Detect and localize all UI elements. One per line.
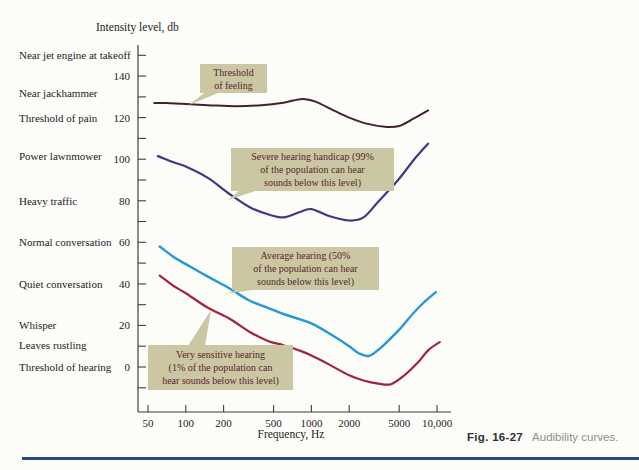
y-tick-label: 140 xyxy=(98,70,130,82)
callout-text-line: (1% of the population can xyxy=(148,361,293,374)
callout-text-line: Threshold xyxy=(200,66,267,79)
textbook-figure-page: Intensity level, db Near jet engine at t… xyxy=(0,0,639,470)
y-tick-label: 40 xyxy=(98,278,130,290)
x-tick-label: 5000 xyxy=(388,417,410,429)
threshold-of-feeling-callout-tail xyxy=(189,93,218,105)
x-tick-label: 2000 xyxy=(338,417,360,429)
threshold-of-feeling-callout: Thresholdof feeling xyxy=(200,64,267,93)
page-rule-line xyxy=(22,457,639,460)
callout-text-line: sounds below this level) xyxy=(231,176,394,189)
x-axis-title: Frequency, Hz xyxy=(245,428,337,440)
average-hearing-callout: Average hearing (50%of the population ca… xyxy=(232,247,379,290)
y-tick-label: 120 xyxy=(98,112,130,124)
sound-label: Heavy traffic xyxy=(19,195,77,207)
y-tick-label: 100 xyxy=(98,153,130,165)
callout-text-line: sounds below this level) xyxy=(232,275,379,288)
x-tick-label: 50 xyxy=(143,417,154,429)
very-sensitive-hearing-callout: Very sensitive hearing(1% of the populat… xyxy=(148,345,293,390)
x-tick-label: 10,000 xyxy=(422,417,452,429)
figure-number: Fig. 16-27 xyxy=(467,431,523,443)
sound-label: Threshold of pain xyxy=(19,112,97,124)
sound-label: Quiet conversation xyxy=(19,278,102,290)
x-tick-label: 100 xyxy=(178,417,195,429)
figure-caption: Fig. 16-27Audibility curves. xyxy=(467,431,618,443)
figure-caption-text: Audibility curves. xyxy=(532,431,618,443)
very-sensitive-hearing-callout-tail xyxy=(188,310,211,346)
y-tick-label: 0 xyxy=(98,361,130,373)
callout-text-line: of the population can hear xyxy=(231,163,394,176)
callout-text-line: Very sensitive hearing xyxy=(148,348,293,361)
sound-label: Leaves rustling xyxy=(19,339,87,351)
curve-threshold-of-feeling xyxy=(154,99,428,127)
callout-text-line: hear sounds below this level) xyxy=(148,374,293,387)
sound-label: Whisper xyxy=(19,319,56,331)
callout-text-line: Severe hearing handicap (99% xyxy=(231,150,394,163)
y-tick-label: 80 xyxy=(98,195,130,207)
sound-label: Power lawnmower xyxy=(19,150,102,162)
callout-text-line: Average hearing (50% xyxy=(232,249,379,262)
callout-text-line: of feeling xyxy=(200,79,267,92)
audibility-curves-chart xyxy=(0,0,639,470)
sound-label: Near jet engine at takeoff xyxy=(19,49,131,61)
y-tick-label: 20 xyxy=(98,319,130,331)
sound-label: Near jackhammer xyxy=(19,87,97,99)
x-tick-label: 200 xyxy=(215,417,232,429)
callout-text-line: of the population can hear xyxy=(232,262,379,275)
severe-hearing-handicap-callout: Severe hearing handicap (99%of the popul… xyxy=(231,148,394,191)
y-tick-label: 60 xyxy=(98,236,130,248)
